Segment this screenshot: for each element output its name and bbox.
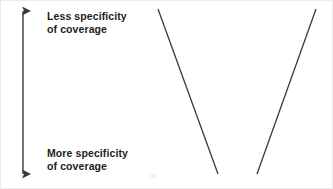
left-diagonal-line xyxy=(158,9,218,174)
more-specificity-label: More specificity of coverage xyxy=(47,147,128,173)
less-specificity-label: Less specificity of coverage xyxy=(47,10,127,36)
more-specificity-label-line2: of coverage xyxy=(47,160,128,173)
right-diagonal-line xyxy=(257,9,316,174)
scan-artifact-mark xyxy=(149,174,156,178)
less-specificity-label-line1: Less specificity xyxy=(47,10,127,23)
diagram-canvas: Less specificity of coverage More specif… xyxy=(0,0,333,189)
more-specificity-label-line1: More specificity xyxy=(47,147,128,160)
less-specificity-label-line2: of coverage xyxy=(47,23,127,36)
